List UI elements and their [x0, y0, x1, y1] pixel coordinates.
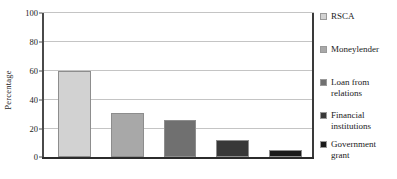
bar: [58, 71, 91, 158]
legend-swatch-icon: [320, 141, 327, 148]
legend: RSCAMoneylenderLoan from relationsFinanc…: [320, 11, 397, 171]
y-axis-title-text: Percentage: [3, 70, 13, 109]
bar: [216, 140, 249, 157]
plot-area: [42, 13, 314, 159]
bar: [269, 150, 302, 157]
plot-right-border: [312, 13, 314, 159]
y-tick-label: 100: [25, 8, 38, 18]
x-axis-line: [42, 157, 314, 159]
legend-item[interactable]: Government grant: [320, 139, 376, 160]
legend-item[interactable]: Financial institutions: [320, 110, 371, 131]
legend-item[interactable]: RSCA: [320, 11, 355, 22]
legend-item[interactable]: Moneylender: [320, 44, 379, 55]
legend-label: Financial institutions: [331, 110, 371, 131]
y-tick-label: 60: [30, 66, 39, 76]
legend-label: Loan from relations: [331, 77, 369, 98]
gridline: [42, 12, 314, 13]
y-tick-label: 0: [34, 152, 38, 162]
legend-item[interactable]: Loan from relations: [320, 77, 369, 98]
legend-label: Government grant: [331, 139, 376, 160]
legend-swatch-icon: [320, 46, 327, 53]
y-tick-label: 80: [30, 37, 39, 47]
bar: [164, 120, 197, 158]
y-tick-label: 20: [30, 124, 39, 134]
y-tick-label: 40: [30, 95, 39, 105]
bar: [111, 113, 144, 158]
y-axis-line: [42, 13, 44, 159]
legend-swatch-icon: [320, 13, 327, 20]
legend-label: Moneylender: [331, 44, 379, 55]
y-axis-tick-labels: 020406080100: [14, 0, 42, 179]
gridline: [42, 41, 314, 42]
legend-label: RSCA: [331, 11, 355, 22]
bar-chart-figure: Percentage 020406080100 RSCAMoneylenderL…: [0, 0, 397, 179]
legend-swatch-icon: [320, 79, 327, 86]
legend-swatch-icon: [320, 112, 327, 119]
